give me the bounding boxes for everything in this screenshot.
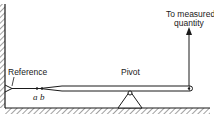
measured-arrow xyxy=(186,27,192,86)
base-floor xyxy=(5,108,210,114)
point-b-label: b xyxy=(40,93,45,102)
point-a-mark xyxy=(36,87,38,89)
pivot-label: Pivot xyxy=(121,68,140,77)
pivot-fulcrum xyxy=(118,91,142,108)
reference-label: Reference xyxy=(8,68,47,77)
left-wall xyxy=(0,4,5,108)
lever-arm xyxy=(14,86,193,91)
measured-quantity-label-line2: quantity xyxy=(174,19,204,28)
reference-leader xyxy=(12,77,14,86)
point-b-mark xyxy=(41,87,43,89)
lever-diagram: Reference Pivot To measured quantity a b xyxy=(0,0,214,124)
reference-mark xyxy=(5,85,14,92)
point-a-label: a xyxy=(33,93,38,102)
